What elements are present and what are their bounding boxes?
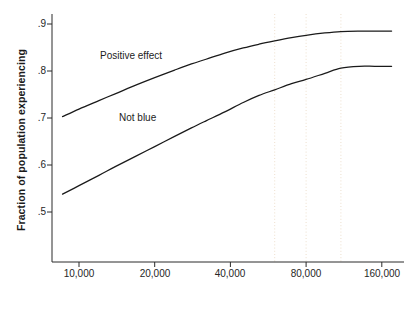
chart-figure: Fraction of population experiencing .9 .… xyxy=(0,0,415,310)
series-lines-group xyxy=(63,31,392,194)
gridlines-group xyxy=(275,14,341,262)
series-line-positive-effect xyxy=(63,31,392,117)
series-line-not-blue xyxy=(63,66,392,194)
plot-area xyxy=(0,0,415,310)
axis-spines-group xyxy=(52,14,404,262)
axis-ticks-group xyxy=(47,24,382,267)
